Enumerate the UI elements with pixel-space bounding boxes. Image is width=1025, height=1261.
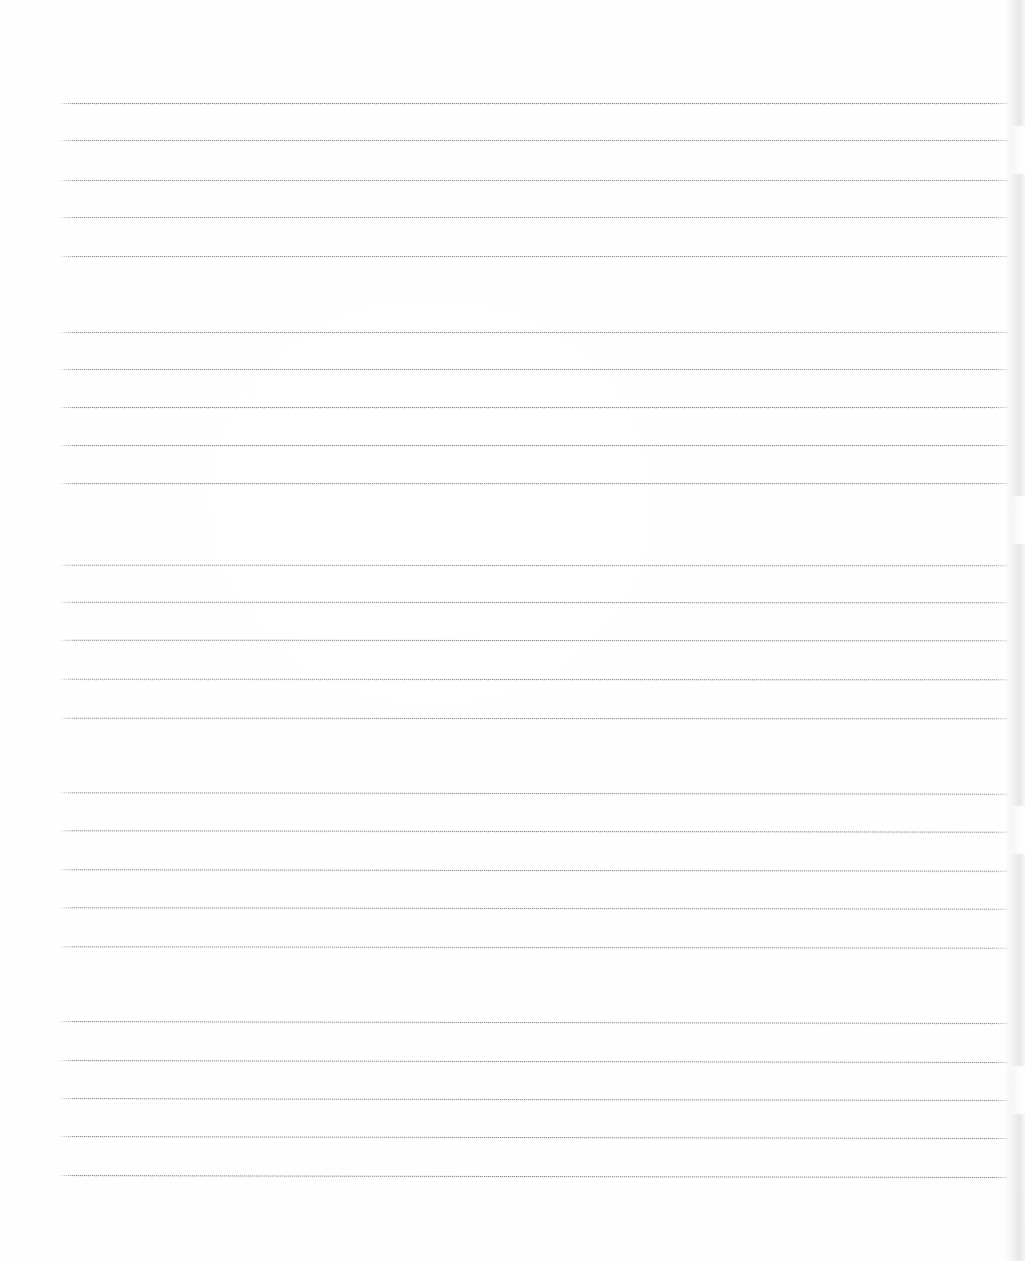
ruled-line-ink-halo (60, 408, 1008, 409)
ruled-line-ink-halo (60, 218, 1008, 219)
ruled-line-end-fade (60, 1135, 1008, 1141)
ruled-line-end-fade (60, 139, 1008, 143)
ruled-line-ink-halo (60, 370, 1008, 371)
ruled-line-ink (60, 792, 1008, 794)
ruled-line (60, 140, 1008, 142)
ruled-line (60, 565, 1008, 568)
ruled-line-ink-halo (60, 181, 1008, 182)
ruled-line (60, 640, 1008, 643)
scanned-page (0, 0, 1025, 1261)
ruled-line-ink-halo (60, 446, 1008, 447)
ruled-line-ink-halo (60, 1137, 1008, 1140)
rule-group-4 (0, 0, 1025, 1261)
scan-edge-notch (1009, 806, 1025, 854)
ruled-line-end-fade (60, 639, 1008, 644)
ruled-line-ink-halo (60, 104, 1008, 105)
ruled-line-ink-halo (60, 566, 1008, 568)
scan-edge-notch (1009, 126, 1025, 174)
ruled-line (60, 792, 1008, 795)
ruled-line-ink (60, 180, 1008, 181)
ruled-line (60, 1136, 1008, 1140)
ruled-line (60, 869, 1008, 872)
ruled-line-ink-halo (60, 719, 1008, 721)
ruled-line-end-fade (60, 368, 1008, 372)
ruled-line-end-fade (60, 945, 1008, 950)
ruled-line-ink (60, 445, 1008, 446)
ruled-line-ink (60, 946, 1008, 948)
ruled-line (60, 1060, 1008, 1064)
ruled-line-ink-halo (60, 1099, 1008, 1102)
ruled-line-ink (60, 1175, 1008, 1178)
ruled-line (60, 483, 1008, 485)
ruled-line-ink-halo (60, 1022, 1008, 1025)
ruled-line-ink-halo (60, 793, 1008, 795)
ruled-line-end-fade (60, 717, 1008, 722)
ruled-line-ink (60, 718, 1008, 720)
ruled-lines-layer (0, 0, 1025, 1261)
ruled-line (60, 369, 1008, 371)
ruled-line (60, 1098, 1008, 1102)
ruled-line (60, 907, 1008, 910)
ruled-line-end-fade (60, 482, 1008, 486)
ruled-line-ink-halo (60, 603, 1008, 605)
ruled-line-end-fade (60, 444, 1008, 448)
ruled-line-ink-halo (60, 1176, 1008, 1179)
ruled-line-ink (60, 1021, 1008, 1024)
ruled-line-ink-halo (60, 908, 1008, 910)
ruled-line-ink-halo (60, 333, 1008, 334)
ruled-line-ink-halo (60, 257, 1008, 258)
rule-group-3 (0, 0, 1025, 1261)
ruled-line (60, 830, 1008, 833)
ruled-line-end-fade (60, 1097, 1008, 1103)
ruled-line-ink-halo (60, 141, 1008, 142)
ruled-line-ink-halo (60, 680, 1008, 682)
ruled-line-ink-halo (60, 947, 1008, 949)
ruled-line (60, 679, 1008, 682)
ruled-line-ink (60, 407, 1008, 408)
ruled-line (60, 946, 1008, 949)
ruled-line (60, 602, 1008, 605)
ruled-line (60, 1021, 1008, 1025)
ruled-line-ink (60, 256, 1008, 257)
ruled-line-ink (60, 565, 1008, 567)
ruled-line-ink (60, 602, 1008, 604)
ruled-line-end-fade (60, 255, 1008, 259)
scan-edge-notch (1009, 496, 1025, 544)
ruled-line-end-fade (60, 906, 1008, 911)
ruled-line-ink (60, 369, 1008, 370)
ruled-line-ink (60, 140, 1008, 141)
ruled-line-end-fade (60, 102, 1008, 106)
ruled-line-ink-halo (60, 484, 1008, 485)
ruled-line-end-fade (60, 216, 1008, 220)
ruled-line (60, 1175, 1008, 1179)
paper-background (0, 0, 1025, 1261)
rule-group-2 (0, 0, 1025, 1261)
ruled-line-end-fade (60, 406, 1008, 410)
ruled-line-ink (60, 483, 1008, 484)
ruled-line (60, 445, 1008, 447)
ruled-line-ink-halo (60, 1061, 1008, 1064)
ruled-line-end-fade (60, 1059, 1008, 1065)
ruled-line-end-fade (60, 564, 1008, 569)
ruled-line-end-fade (60, 601, 1008, 606)
ruled-line-ink (60, 869, 1008, 871)
ruled-line-end-fade (60, 868, 1008, 873)
ruled-line (60, 332, 1008, 334)
ruled-line-ink (60, 640, 1008, 642)
ruled-line-ink (60, 907, 1008, 909)
ruled-line-end-fade (60, 791, 1008, 796)
ruled-line-end-fade (60, 1020, 1008, 1026)
ruled-line (60, 256, 1008, 258)
ruled-line (60, 407, 1008, 409)
ruled-line-ink (60, 679, 1008, 681)
ruled-line (60, 103, 1008, 105)
ruled-line-ink (60, 1098, 1008, 1101)
ruled-line-ink (60, 217, 1008, 218)
ruled-line-ink-halo (60, 870, 1008, 872)
ruled-line-end-fade (60, 1174, 1008, 1180)
ruled-line-ink (60, 830, 1008, 832)
ruled-line-end-fade (60, 678, 1008, 683)
ruled-line-end-fade (60, 829, 1008, 834)
ruled-line-ink-halo (60, 831, 1008, 833)
ruled-line (60, 718, 1008, 721)
